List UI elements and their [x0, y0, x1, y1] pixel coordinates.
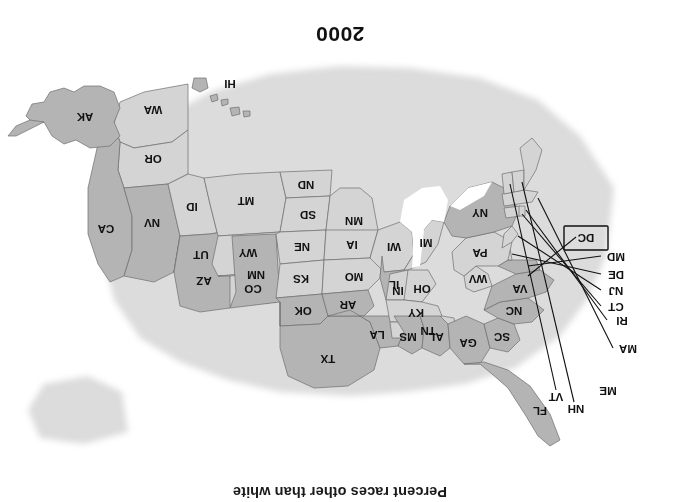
state-label-AL: AL: [428, 331, 443, 343]
map-canvas: WA OR CA NV ID UT AZ MT WY CO NM ND SD N…: [0, 33, 680, 488]
state-label-NJ: NJ: [609, 285, 624, 297]
state-AK-panhandle[interactable]: [8, 120, 44, 136]
state-label-CA: CA: [98, 223, 115, 235]
state-label-DE: DE: [608, 269, 624, 281]
map-figure: Percent races other than white: [0, 0, 680, 502]
state-label-KY: KY: [408, 307, 424, 319]
state-HI-1[interactable]: [192, 78, 208, 92]
state-label-DC: DC: [578, 232, 595, 244]
state-label-PA: PA: [472, 247, 487, 259]
state-label-GA: GA: [459, 337, 476, 349]
state-label-NV: NV: [144, 217, 160, 229]
state-label-SD: SD: [300, 209, 316, 221]
state-label-NE: NE: [294, 241, 310, 253]
state-label-MI: MI: [420, 237, 433, 249]
state-label-LA: LA: [369, 329, 384, 341]
state-label-VA: VA: [512, 283, 527, 295]
state-label-AZ: AZ: [196, 275, 211, 287]
state-label-WY: WY: [238, 247, 257, 259]
state-label-AK: AK: [76, 111, 93, 123]
state-label-ID: ID: [186, 201, 198, 213]
state-label-OR: OR: [144, 153, 162, 165]
state-label-CO: CO: [244, 283, 261, 295]
us-map-svg: WA OR CA NV ID UT AZ MT WY CO NM ND SD N…: [0, 33, 680, 488]
state-label-NC: NC: [506, 305, 523, 317]
state-label-MD: MD: [607, 251, 625, 263]
state-label-WV: WV: [468, 273, 487, 285]
state-label-OK: OK: [294, 305, 312, 317]
state-label-TX: TX: [320, 353, 335, 365]
state-label-ND: ND: [298, 179, 315, 191]
state-label-WA: WA: [144, 104, 163, 116]
state-NH[interactable]: [512, 170, 524, 192]
state-label-IN: IN: [392, 285, 404, 297]
state-AK[interactable]: [26, 86, 120, 148]
state-HI-5[interactable]: [243, 111, 250, 117]
state-label-SC: SC: [494, 331, 510, 343]
state-label-AR: AR: [339, 299, 356, 311]
state-label-HI: HI: [224, 78, 236, 90]
state-label-MN: MN: [345, 215, 363, 227]
state-label-MT: MT: [238, 195, 255, 207]
state-label-MS: MS: [399, 331, 417, 343]
state-HI-4[interactable]: [230, 107, 240, 116]
state-label-FL: FL: [533, 405, 547, 417]
state-label-CT: CT: [608, 301, 623, 313]
state-label-NM: NM: [247, 269, 265, 281]
state-label-NH: NH: [568, 403, 585, 415]
state-label-IA: IA: [346, 239, 358, 251]
state-label-MA: MA: [619, 343, 637, 355]
state-label-VT: VT: [549, 391, 564, 403]
state-label-KS: KS: [293, 273, 309, 285]
figure-year: 2000: [0, 22, 680, 46]
state-label-MO: MO: [345, 271, 364, 283]
state-label-UT: UT: [193, 249, 208, 261]
state-label-OH: OH: [413, 283, 430, 295]
state-label-WI: WI: [387, 241, 401, 253]
state-label-NY: NY: [472, 207, 488, 219]
state-label-RI: RI: [616, 315, 628, 327]
state-label-ME: ME: [599, 385, 617, 397]
